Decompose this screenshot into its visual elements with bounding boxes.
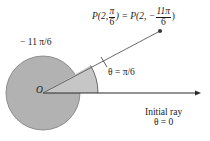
point-p-label: P(2,π6) = P(2, −11π6) — [92, 7, 175, 27]
initial-ray-text: Initial ray — [145, 107, 182, 117]
point-p-fraction-1: π6 — [109, 7, 116, 27]
polar-angle-figure: P(2,π6) = P(2, −11π6) − 11 π/6 θ = π/6 I… — [0, 0, 210, 141]
point-p-frac1-denominator: 6 — [109, 18, 116, 28]
point-p-fraction-2: 11π6 — [156, 7, 172, 27]
origin-label: O — [36, 86, 43, 96]
point-p-middle: ) = P(2, − — [116, 11, 155, 21]
point-p-frac2-denominator: 6 — [156, 18, 172, 28]
initial-ray-label: Initial ray θ = 0 — [145, 108, 182, 128]
theta-angle-label: θ = π/6 — [108, 68, 135, 78]
point-p-frac1-numerator: π — [109, 7, 116, 18]
initial-ray-theta-zero: θ = 0 — [145, 118, 182, 128]
point-p-marker — [158, 29, 162, 33]
point-p-frac2-numerator: 11π — [156, 7, 172, 18]
point-p-prefix: P(2, — [92, 11, 108, 21]
negative-angle-label: − 11 π/6 — [20, 38, 51, 48]
point-p-suffix: ) — [172, 11, 175, 21]
initial-ray-arrowhead — [195, 91, 201, 96]
